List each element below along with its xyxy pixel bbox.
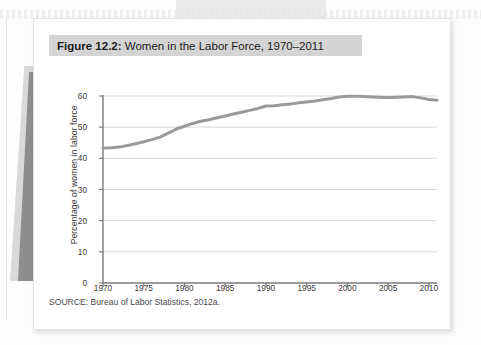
- y-tick-label: 40: [67, 153, 87, 163]
- y-tick-label: 50: [67, 122, 87, 132]
- x-tick-label: 2000: [327, 283, 367, 293]
- x-tick-label: 1995: [287, 283, 327, 293]
- figure-card: Figure 12.2: Women in the Labor Force, 1…: [33, 18, 451, 330]
- x-tick-label: 1975: [124, 283, 164, 293]
- chart-tick-marks: [99, 96, 429, 287]
- source-note: SOURCE: Bureau of Labor Statistics, 2012…: [49, 297, 220, 307]
- data-series-line: [103, 96, 437, 148]
- y-tick-label: 20: [67, 216, 87, 226]
- y-tick-label: 60: [67, 91, 87, 101]
- y-tick-label: 10: [67, 247, 87, 257]
- x-tick-label: 1985: [205, 283, 245, 293]
- x-tick-label: 2010: [409, 283, 449, 293]
- chart-plot-area: Percentage of women in labor force 01020…: [34, 19, 450, 329]
- x-tick-label: 1990: [246, 283, 286, 293]
- x-tick-label: 1980: [164, 283, 204, 293]
- y-tick-label: 30: [67, 185, 87, 195]
- x-tick-label: 1970: [83, 283, 123, 293]
- chart-gridlines: [103, 96, 437, 252]
- x-axis-tick-labels: 197019751980198519901995200020052010: [34, 283, 450, 297]
- x-tick-label: 2005: [368, 283, 408, 293]
- background-vertical-rule: [6, 18, 7, 318]
